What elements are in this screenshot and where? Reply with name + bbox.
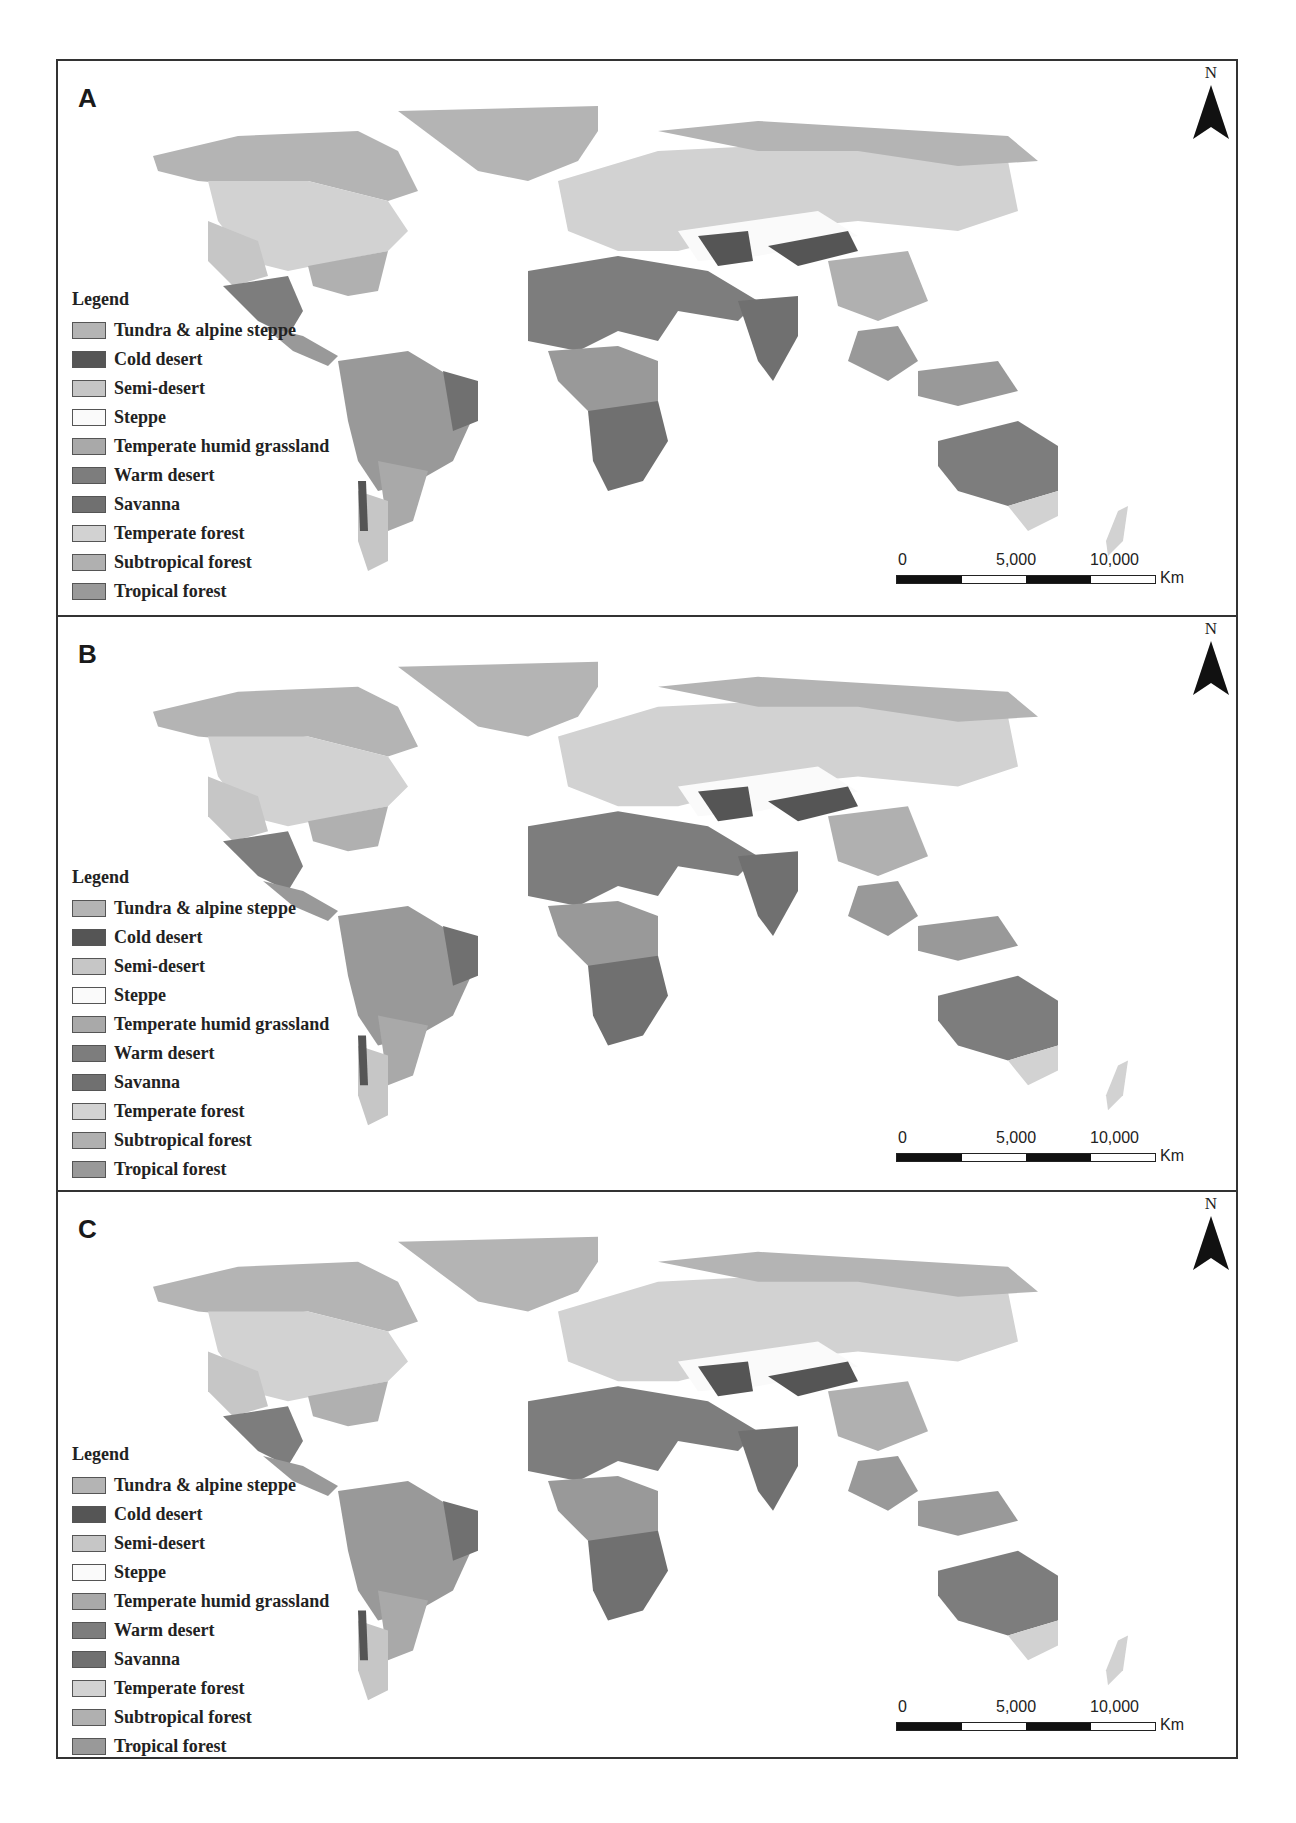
legend-label: Tropical forest — [114, 581, 226, 602]
scale-tick: 10,000 — [1090, 551, 1139, 569]
legend-swatch — [72, 1738, 106, 1755]
legend-swatch — [72, 1103, 106, 1120]
legend-label: Temperate humid grassland — [114, 436, 329, 457]
legend-label: Steppe — [114, 1562, 166, 1583]
legend-item: Tundra & alpine steppe — [72, 316, 329, 345]
panel-label: C — [78, 1214, 97, 1245]
panel-a: A N LegendTundra & alpine steppeCold des… — [58, 61, 1236, 615]
legend-item: Temperate humid grassland — [72, 1587, 329, 1616]
legend-title: Legend — [72, 867, 329, 888]
legend-label: Savanna — [114, 494, 180, 515]
legend-label: Tundra & alpine steppe — [114, 1475, 296, 1496]
legend-label: Tundra & alpine steppe — [114, 320, 296, 341]
legend-label: Steppe — [114, 407, 166, 428]
legend-item: Temperate humid grassland — [72, 1010, 329, 1039]
legend-swatch — [72, 351, 106, 368]
legend-swatch — [72, 958, 106, 975]
legend-label: Warm desert — [114, 465, 214, 486]
legend-label: Cold desert — [114, 349, 203, 370]
legend-item: Temperate humid grassland — [72, 432, 329, 461]
north-arrow: N — [1190, 1194, 1232, 1276]
scale-bar-graphic — [896, 575, 1156, 584]
legend-item: Steppe — [72, 1558, 329, 1587]
legend-swatch — [72, 1535, 106, 1552]
legend-swatch — [72, 1132, 106, 1149]
legend-item: Cold desert — [72, 923, 329, 952]
legend-swatch — [72, 1709, 106, 1726]
legend-item: Tropical forest — [72, 1732, 329, 1761]
panel-b: B N LegendTundra & alpine steppeCold des… — [58, 615, 1236, 1190]
north-arrow: N — [1190, 619, 1232, 701]
legend-swatch — [72, 1074, 106, 1091]
legend-swatch — [72, 1506, 106, 1523]
legend-item: Cold desert — [72, 345, 329, 374]
north-label: N — [1190, 619, 1232, 639]
legend-item: Savanna — [72, 1068, 329, 1097]
north-arrow-icon — [1191, 639, 1231, 697]
legend: LegendTundra & alpine steppeCold desertS… — [72, 1444, 329, 1761]
legend-label: Savanna — [114, 1072, 180, 1093]
scale-tick: 0 — [898, 1129, 907, 1147]
legend-label: Subtropical forest — [114, 552, 252, 573]
legend-item: Tundra & alpine steppe — [72, 1471, 329, 1500]
legend-item: Steppe — [72, 403, 329, 432]
legend-item: Tropical forest — [72, 577, 329, 606]
north-arrow-icon — [1191, 83, 1231, 141]
scale-tick: 10,000 — [1090, 1129, 1139, 1147]
legend-label: Tropical forest — [114, 1736, 226, 1757]
legend-swatch — [72, 1477, 106, 1494]
legend-swatch — [72, 1622, 106, 1639]
scale-bar-graphic — [896, 1722, 1156, 1731]
legend-title: Legend — [72, 289, 329, 310]
scale-tick: 5,000 — [996, 1698, 1036, 1716]
legend-title: Legend — [72, 1444, 329, 1465]
legend-label: Temperate forest — [114, 1101, 244, 1122]
legend-swatch — [72, 1680, 106, 1697]
scale-tick: 5,000 — [996, 551, 1036, 569]
legend-item: Semi-desert — [72, 952, 329, 981]
legend-swatch — [72, 1593, 106, 1610]
legend-item: Warm desert — [72, 1039, 329, 1068]
panel-label: B — [78, 639, 97, 670]
legend-swatch — [72, 1564, 106, 1581]
legend-swatch — [72, 900, 106, 917]
scale-bar: 05,00010,000Km — [896, 1698, 1196, 1758]
legend-item: Tundra & alpine steppe — [72, 894, 329, 923]
scale-tick: 10,000 — [1090, 1698, 1139, 1716]
scale-unit: Km — [1160, 569, 1184, 587]
legend-label: Tropical forest — [114, 1159, 226, 1180]
legend-item: Subtropical forest — [72, 548, 329, 577]
legend-label: Semi-desert — [114, 378, 205, 399]
scale-bar: 05,00010,000Km — [896, 551, 1196, 611]
scale-bar-graphic — [896, 1153, 1156, 1162]
legend-item: Temperate forest — [72, 1097, 329, 1126]
legend-swatch — [72, 987, 106, 1004]
legend-label: Warm desert — [114, 1043, 214, 1064]
legend-swatch — [72, 496, 106, 513]
legend-item: Temperate forest — [72, 519, 329, 548]
panel-label: A — [78, 83, 97, 114]
legend-item: Temperate forest — [72, 1674, 329, 1703]
legend-label: Cold desert — [114, 927, 203, 948]
scale-tick: 5,000 — [996, 1129, 1036, 1147]
scale-bar: 05,00010,000Km — [896, 1129, 1196, 1189]
scale-unit: Km — [1160, 1147, 1184, 1165]
legend-item: Tropical forest — [72, 1155, 329, 1184]
legend-label: Temperate humid grassland — [114, 1591, 329, 1612]
legend-label: Tundra & alpine steppe — [114, 898, 296, 919]
legend-swatch — [72, 380, 106, 397]
legend-swatch — [72, 322, 106, 339]
legend-item: Savanna — [72, 1645, 329, 1674]
legend-item: Semi-desert — [72, 1529, 329, 1558]
legend-label: Temperate humid grassland — [114, 1014, 329, 1035]
legend-swatch — [72, 554, 106, 571]
legend-label: Semi-desert — [114, 1533, 205, 1554]
legend-item: Subtropical forest — [72, 1126, 329, 1155]
legend-swatch — [72, 583, 106, 600]
legend-item: Warm desert — [72, 1616, 329, 1645]
legend-swatch — [72, 438, 106, 455]
scale-tick: 0 — [898, 551, 907, 569]
legend-item: Steppe — [72, 981, 329, 1010]
panel-c: C N LegendTundra & alpine steppeCold des… — [58, 1190, 1236, 1757]
legend-label: Temperate forest — [114, 523, 244, 544]
